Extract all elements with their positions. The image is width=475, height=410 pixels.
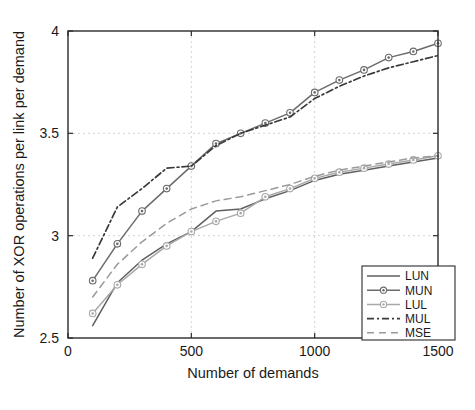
data-point-center — [387, 56, 390, 59]
data-point-center — [412, 50, 415, 53]
y-axis-title: Number of XOR operations per link per de… — [11, 31, 27, 338]
data-point-center — [313, 91, 316, 94]
data-point-center — [363, 69, 366, 72]
y-tick-label: 3.5 — [40, 125, 60, 141]
data-point-center — [412, 159, 415, 162]
data-point-center — [289, 187, 292, 190]
legend-marker-center — [382, 289, 384, 291]
data-point-center — [387, 163, 390, 166]
data-point-center — [338, 171, 341, 174]
legend-label-mun: MUN — [405, 284, 432, 298]
data-point-center — [289, 112, 292, 115]
legend[interactable]: LUNMUNLULMULMSE — [362, 266, 455, 340]
x-axis-title: Number of demands — [187, 365, 318, 381]
data-point-center — [363, 167, 366, 170]
data-point-center — [141, 263, 144, 266]
chart-figure: 050010001500 2.533.54 Number of demands … — [0, 0, 475, 410]
data-point-center — [116, 283, 119, 286]
legend-label-lun: LUN — [405, 269, 429, 283]
y-tick-label: 4 — [51, 23, 59, 39]
y-tick-label: 2.5 — [40, 330, 60, 346]
x-tick-label: 1000 — [299, 343, 330, 359]
data-point-center — [116, 243, 119, 246]
data-point-center — [91, 279, 94, 282]
data-point-center — [313, 177, 316, 180]
legend-label-mul: MUL — [405, 312, 431, 326]
data-point-center — [264, 195, 267, 198]
data-point-center — [141, 210, 144, 213]
x-tick-label: 500 — [180, 343, 204, 359]
x-tick-label: 0 — [64, 343, 72, 359]
data-point-center — [165, 245, 168, 248]
legend-marker-center — [382, 303, 384, 305]
data-point-center — [239, 212, 242, 215]
data-point-center — [91, 312, 94, 315]
legend-label-mse: MSE — [405, 326, 431, 340]
x-tick-label: 1500 — [422, 343, 453, 359]
data-point-center — [190, 230, 193, 233]
data-point-center — [215, 142, 218, 145]
y-tick-label: 3 — [51, 228, 59, 244]
data-point-center — [338, 79, 341, 82]
data-point-center — [215, 220, 218, 223]
legend-label-lul: LUL — [405, 298, 427, 312]
data-point-center — [165, 187, 168, 190]
